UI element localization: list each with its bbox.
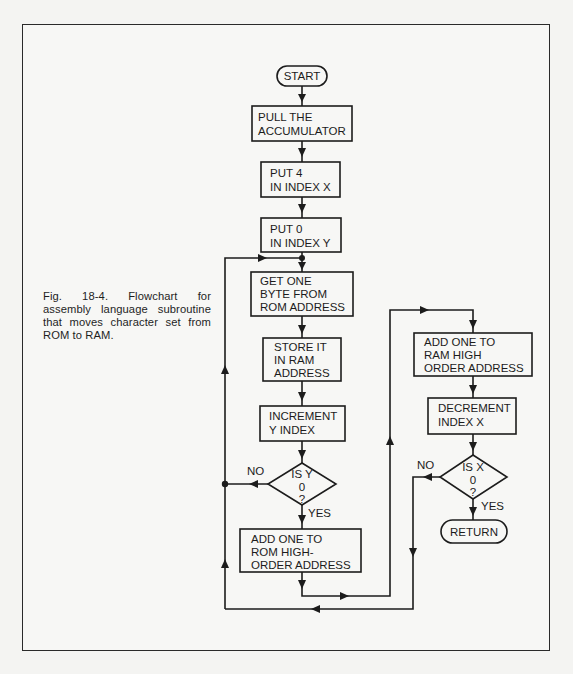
addrom-label-1: ADD ONE TO bbox=[251, 533, 322, 545]
y-yes-label: YES bbox=[308, 507, 331, 519]
addrom-label-2: ROM HIGH- bbox=[251, 546, 314, 558]
return-label: RETURN bbox=[450, 526, 498, 538]
put0-label-2: IN INDEX Y bbox=[270, 237, 331, 249]
store-label-3: ADDRESS bbox=[274, 367, 330, 379]
addram-label-2: RAM HIGH bbox=[424, 349, 482, 361]
isy-label-3: ? bbox=[299, 493, 305, 505]
addrom-label-3: ORDER ADDRESS bbox=[251, 559, 351, 571]
flowchart: START PULL THE ACCUMULATOR PUT 4 IN INDE… bbox=[0, 0, 573, 674]
put4-label-2: IN INDEX X bbox=[270, 181, 331, 193]
getbyte-label-3: ROM ADDRESS bbox=[260, 301, 345, 313]
store-label-1: STORE IT bbox=[274, 341, 327, 353]
isx-label-2: 0 bbox=[470, 474, 476, 486]
getbyte-label-1: GET ONE bbox=[260, 275, 312, 287]
isx-label-1: IS X bbox=[462, 461, 484, 473]
isx-label-3: ? bbox=[470, 486, 476, 498]
addram-label-3: ORDER ADDRESS bbox=[424, 362, 524, 374]
getbyte-label-2: BYTE FROM bbox=[260, 288, 327, 300]
put0-label-1: PUT 0 bbox=[270, 223, 302, 235]
x-yes-label: YES bbox=[481, 500, 504, 512]
put4-label-1: PUT 4 bbox=[270, 167, 303, 179]
decx-label-1: DECREMENT bbox=[438, 402, 511, 414]
isy-label-2: 0 bbox=[299, 481, 305, 493]
store-label-2: IN RAM bbox=[274, 354, 314, 366]
incy-label-2: Y INDEX bbox=[269, 424, 315, 436]
x-no-label: NO bbox=[417, 459, 434, 471]
start-label: START bbox=[284, 70, 321, 82]
pull-label-2: ACCUMULATOR bbox=[258, 125, 346, 137]
decx-label-2: INDEX X bbox=[438, 416, 484, 428]
y-no-label: NO bbox=[247, 465, 264, 477]
addram-label-1: ADD ONE TO bbox=[424, 336, 495, 348]
incy-label-1: INCREMENT bbox=[269, 410, 337, 422]
pull-label-1: PULL THE bbox=[258, 111, 313, 123]
isy-label-1: IS Y bbox=[291, 468, 313, 480]
